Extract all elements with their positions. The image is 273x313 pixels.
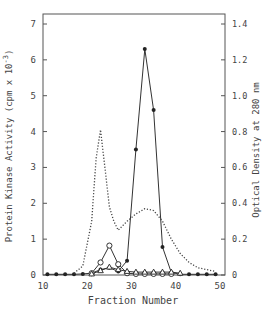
y-right-tick-label: 0.6: [232, 162, 247, 172]
y-right-tick-label: 0: [232, 270, 237, 280]
series-line: [74, 130, 216, 273]
x-tick-label: 50: [215, 281, 226, 291]
y-tick-label: 3: [31, 162, 36, 172]
axes: 0123456700.20.40.60.81.01.21.41020304050: [31, 14, 248, 291]
x-axis-label: Fraction Number: [88, 295, 178, 306]
data-point-filled-circle: [125, 259, 129, 263]
data-point-open-triangle: [160, 269, 166, 274]
data-point-filled-circle: [134, 148, 138, 152]
data-point-filled-circle: [143, 47, 147, 51]
y-right-tick-label: 1.0: [232, 91, 247, 101]
y-tick-label: 6: [31, 55, 36, 65]
data-point-filled-circle: [63, 272, 67, 276]
y-right-tick-label: 0.2: [232, 234, 247, 244]
data-point-filled-circle: [81, 272, 85, 276]
data-point-open-triangle: [107, 264, 113, 269]
data-point-open-triangle: [169, 269, 175, 274]
data-point-filled-circle: [196, 272, 200, 276]
y-right-tick-label: 0.8: [232, 127, 247, 137]
data-point-open-circle: [107, 243, 112, 248]
chart-container: 0123456700.20.40.60.81.01.21.41020304050…: [0, 0, 273, 313]
data-point-open-triangle: [115, 267, 121, 272]
data-point-open-triangle: [124, 268, 130, 273]
y-right-tick-label: 0.4: [232, 198, 247, 208]
data-point-filled-circle: [160, 245, 164, 249]
data-point-filled-circle: [205, 272, 209, 276]
data-point-open-triangle: [98, 268, 104, 273]
y-axis-label: Protein Kinase Activity (cpm x 10-3): [2, 50, 14, 243]
y-tick-label: 1: [31, 234, 36, 244]
y-tick-label: 5: [31, 91, 36, 101]
data-point-open-circle: [98, 260, 103, 265]
data-point-filled-circle: [187, 272, 191, 276]
y-axis-right-label: Optical Density at 280 nm: [251, 82, 261, 217]
data-point-filled-circle: [152, 108, 156, 112]
data-point-filled-circle: [54, 272, 58, 276]
x-tick-label: 30: [126, 281, 137, 291]
y-tick-label: 7: [31, 19, 36, 29]
data-point-filled-circle: [214, 272, 218, 276]
data-point-open-triangle: [133, 269, 139, 274]
data-point-filled-circle: [45, 272, 49, 276]
data-point-open-triangle: [151, 269, 157, 274]
y-tick-label: 2: [31, 198, 36, 208]
x-tick-label: 40: [170, 281, 181, 291]
series-line: [47, 49, 215, 274]
chart-svg: 0123456700.20.40.60.81.01.21.41020304050…: [0, 0, 273, 313]
x-tick-label: 10: [38, 281, 49, 291]
y-right-tick-label: 1.2: [232, 55, 247, 65]
data-point-open-triangle: [177, 270, 183, 275]
plot-frame: [43, 14, 225, 275]
plot-area: [45, 47, 217, 276]
data-point-open-triangle: [142, 269, 148, 274]
x-tick-label: 20: [82, 281, 93, 291]
y-tick-label: 4: [31, 127, 36, 137]
y-tick-label: 0: [31, 270, 36, 280]
y-right-tick-label: 1.4: [232, 19, 247, 29]
